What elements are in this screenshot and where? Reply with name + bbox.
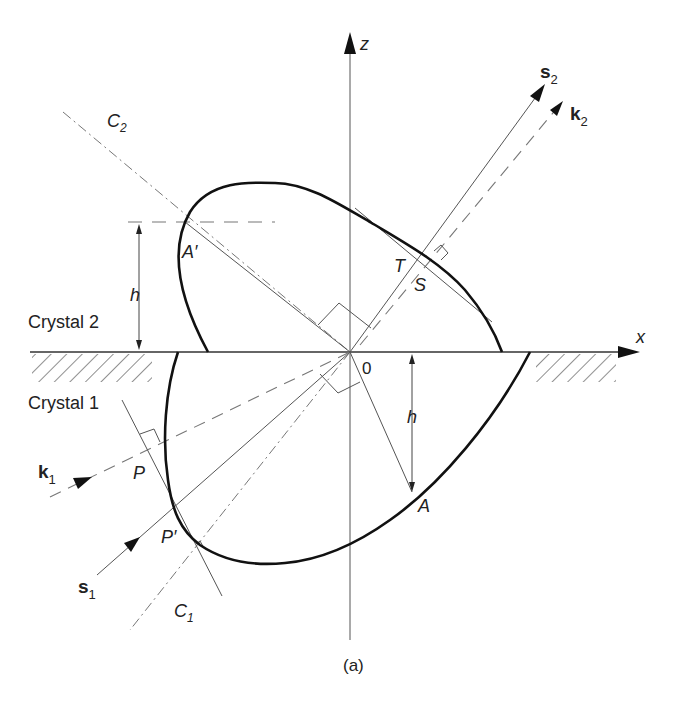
point-t-label: T <box>394 256 407 276</box>
s2-label: s2 <box>540 61 558 87</box>
c1-line <box>130 352 350 630</box>
point-a-label: A <box>417 496 430 516</box>
h-upper-arrow-bottom-icon <box>136 340 142 350</box>
left-hatched-region <box>32 354 152 382</box>
s1-label: s1 <box>78 576 96 602</box>
origin-label: 0 <box>362 359 371 378</box>
s2-arrow-icon <box>530 84 545 102</box>
h-lower-arrow-top-icon <box>409 354 415 364</box>
point-s-label: S <box>414 275 426 295</box>
x-axis-label: x <box>635 327 646 347</box>
line-o-a <box>350 352 412 492</box>
lower-index-surface-curve <box>165 352 530 564</box>
z-axis-label: z <box>359 34 369 54</box>
h-lower-label: h <box>407 407 417 427</box>
k1-arrow-icon <box>73 477 92 489</box>
c1-label: C1 <box>174 601 194 625</box>
upper-index-surface-curve <box>179 183 502 352</box>
h-upper-arrow-top-icon <box>136 224 142 234</box>
right-angle-mark-origin-upper <box>318 303 371 328</box>
k2-label: k2 <box>570 103 588 129</box>
right-angle-mark-origin-lower <box>320 374 360 393</box>
crystal-1-label: Crystal 1 <box>28 393 99 413</box>
line-o-a-prime <box>185 222 350 352</box>
x-axis-arrow-icon <box>618 346 640 358</box>
c2-line <box>63 112 350 352</box>
right-hatched-region <box>536 354 616 382</box>
point-p-label: P <box>133 463 145 483</box>
k2-ray <box>360 108 557 345</box>
figure-caption: (a) <box>343 656 364 675</box>
crystal-2-label: Crystal 2 <box>28 312 99 332</box>
s2-ray <box>350 94 538 352</box>
z-axis-arrow-icon <box>344 32 356 54</box>
refraction-diagram: x z C2 C1 h h s2 k2 s1 k1 <box>0 0 674 701</box>
point-p-prime-label: P′ <box>161 527 177 547</box>
k1-label: k1 <box>38 461 56 487</box>
right-angle-mark-p <box>140 429 160 442</box>
point-a-prime-label: A′ <box>181 242 198 262</box>
h-upper-label: h <box>130 285 140 305</box>
c2-label: C2 <box>107 111 127 135</box>
